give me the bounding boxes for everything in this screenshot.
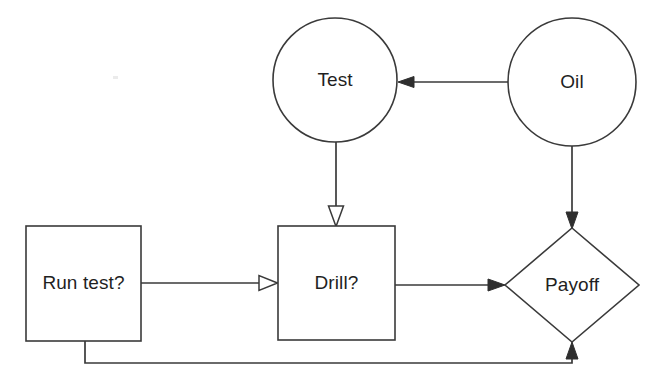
node-drill[interactable]: Drill? [278,226,395,340]
node-payoff-label: Payoff [545,274,600,295]
node-oil-label: Oil [560,71,584,92]
edge-oil-to-test [398,77,508,88]
node-run-test[interactable]: Run test? [26,226,141,341]
node-run-test-label: Run test? [42,272,124,293]
edge-oil-to-test-arrowhead [398,77,414,88]
edge-test-to-drill-arrowhead [329,206,344,227]
edge-run-test-to-drill-arrowhead [259,276,278,291]
edge-run-test-to-payoff [85,341,578,363]
edge-test-to-drill [329,142,344,227]
edge-drill-to-payoff-arrowhead [488,279,505,291]
node-payoff[interactable]: Payoff [505,228,639,342]
edge-oil-to-payoff [566,146,578,229]
node-test-label: Test [317,69,353,90]
edge-run-test-to-payoff-line [85,341,572,363]
influence-diagram: Test Oil Run test? Drill? Payoff [0,0,662,382]
node-oil[interactable]: Oil [508,18,636,146]
edge-oil-to-payoff-arrowhead [566,212,578,229]
node-drill-label: Drill? [315,272,359,293]
edge-drill-to-payoff [395,279,505,291]
diagram-canvas: Test Oil Run test? Drill? Payoff [0,0,662,382]
edge-run-test-to-drill [141,276,278,291]
edge-run-test-to-payoff-arrowhead [566,342,578,359]
node-test[interactable]: Test [273,18,397,142]
